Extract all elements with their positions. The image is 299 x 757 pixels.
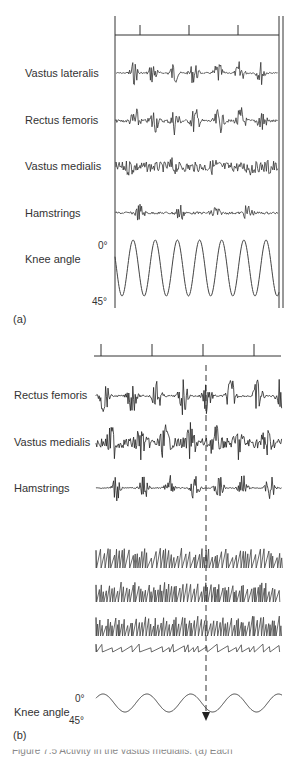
emg-trace-hamstrings-b — [96, 475, 282, 501]
panel-b-label: (b) — [13, 729, 26, 741]
emg-trace-rectus-femoris-b — [96, 379, 282, 414]
raw-trace-2 — [96, 582, 280, 602]
panel-a-label: (a) — [13, 313, 26, 325]
arrow-head-icon — [202, 712, 210, 721]
angle-bottom-label-b: 45° — [69, 715, 84, 726]
trace-label-vastus-medialis: Vastus medialis — [25, 160, 101, 172]
angle-top-label-b: 0° — [75, 693, 85, 704]
trace-label-hamstrings-b: Hamstrings — [14, 482, 70, 494]
emg-trace-hamstrings — [116, 204, 278, 220]
panel-b-timebar — [94, 344, 281, 356]
emg-trace-rectus-femoris — [116, 108, 278, 136]
raw-trace-1 — [96, 548, 282, 568]
trace-label-knee-angle: Knee angle — [25, 253, 81, 265]
trace-label-vastus-lateralis: Vastus lateralis — [25, 67, 99, 79]
trace-label-rectus-femoris: Rectus femoris — [25, 114, 98, 126]
angle-top-label: 0° — [98, 240, 108, 251]
raw-trace-3 — [96, 616, 282, 636]
panel-a-frame — [115, 16, 283, 308]
angle-bottom-label: 45° — [92, 296, 107, 307]
trace-label-vastus-medialis-b: Vastus medialis — [14, 436, 90, 448]
emg-trace-vastus-medialis-b — [96, 422, 282, 460]
trace-label-rectus-femoris-b: Rectus femoris — [14, 389, 87, 401]
trace-label-knee-angle-b: Knee angle — [14, 706, 70, 718]
raw-trace-4 — [96, 644, 280, 652]
emg-trace-vastus-lateralis — [116, 62, 278, 85]
emg-trace-vastus-medialis — [116, 158, 278, 176]
trace-label-hamstrings: Hamstrings — [25, 207, 81, 219]
